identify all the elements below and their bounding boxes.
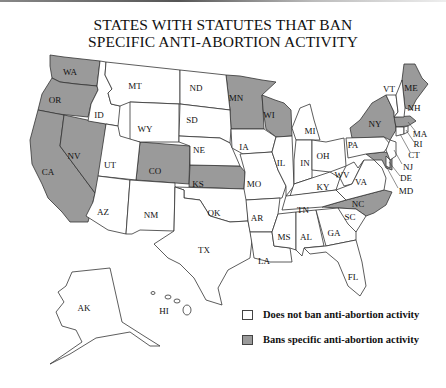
state-MA — [394, 116, 416, 127]
label-MD: MD — [399, 186, 414, 196]
state-CT — [396, 127, 404, 136]
label-MO: MO — [247, 179, 262, 189]
legend-item-no-ban: Does not ban anti-abortion activity — [242, 309, 419, 320]
label-FL: FL — [348, 272, 359, 282]
label-AR: AR — [251, 213, 264, 223]
label-OR: OR — [49, 95, 62, 105]
label-NJ: NJ — [403, 162, 413, 172]
label-ND: ND — [190, 83, 203, 93]
state-CO — [136, 142, 190, 184]
label-NC: NC — [352, 199, 365, 209]
label-TN: TN — [297, 205, 309, 215]
label-SC: SC — [344, 212, 355, 222]
label-NY: NY — [369, 119, 382, 129]
label-NE: NE — [193, 145, 205, 155]
label-ID: ID — [94, 110, 104, 120]
label-AK: AK — [78, 303, 91, 313]
label-AZ: AZ — [97, 207, 109, 217]
label-SD: SD — [186, 115, 198, 125]
label-MT: MT — [128, 81, 142, 91]
label-DE: DE — [400, 173, 412, 183]
label-VT: VT — [383, 84, 395, 94]
label-WV: WV — [335, 170, 350, 180]
label-KY: KY — [317, 182, 330, 192]
label-WI: WI — [263, 110, 275, 120]
label-LA: LA — [258, 256, 270, 266]
label-ME: ME — [404, 83, 418, 93]
label-KS: KS — [192, 179, 204, 189]
label-TX: TX — [198, 245, 210, 255]
label-VA: VA — [355, 177, 367, 187]
state-NM — [126, 180, 175, 234]
label-NH: NH — [408, 103, 421, 113]
label-NV: NV — [68, 151, 81, 161]
us-states-map: WA OR CA NV ID MT WY UT AZ CO NM ND SD N… — [0, 0, 446, 388]
label-WA: WA — [63, 67, 77, 77]
legend-label-ban: Bans specific anti-abortion activity — [263, 334, 419, 345]
label-UT: UT — [104, 160, 116, 170]
label-IN: IN — [300, 158, 310, 168]
legend-label-no-ban: Does not ban anti-abortion activity — [263, 309, 419, 320]
label-MI: MI — [305, 126, 316, 136]
label-HI: HI — [159, 306, 169, 316]
label-WY: WY — [138, 124, 153, 134]
legend-swatch-ban — [242, 335, 253, 345]
label-PA: PA — [348, 140, 359, 150]
state-FL — [304, 240, 366, 296]
label-NM: NM — [144, 210, 159, 220]
state-AK — [50, 268, 160, 364]
label-GA: GA — [328, 228, 341, 238]
label-IL: IL — [277, 158, 286, 168]
legend-swatch-no-ban — [242, 310, 253, 320]
label-RI: RI — [414, 139, 423, 149]
label-OK: OK — [208, 208, 221, 218]
label-CA: CA — [42, 167, 55, 177]
legend-item-ban: Bans specific anti-abortion activity — [242, 334, 419, 345]
state-ND — [180, 70, 230, 110]
label-OH: OH — [317, 151, 330, 161]
state-MT — [105, 62, 180, 106]
state-HI — [151, 292, 191, 316]
label-IA: IA — [239, 142, 249, 152]
state-WY — [130, 102, 179, 142]
label-AL: AL — [300, 232, 312, 242]
label-CO: CO — [149, 166, 162, 176]
label-MN: MN — [229, 93, 244, 103]
state-IA — [231, 129, 276, 154]
label-MS: MS — [277, 232, 290, 242]
